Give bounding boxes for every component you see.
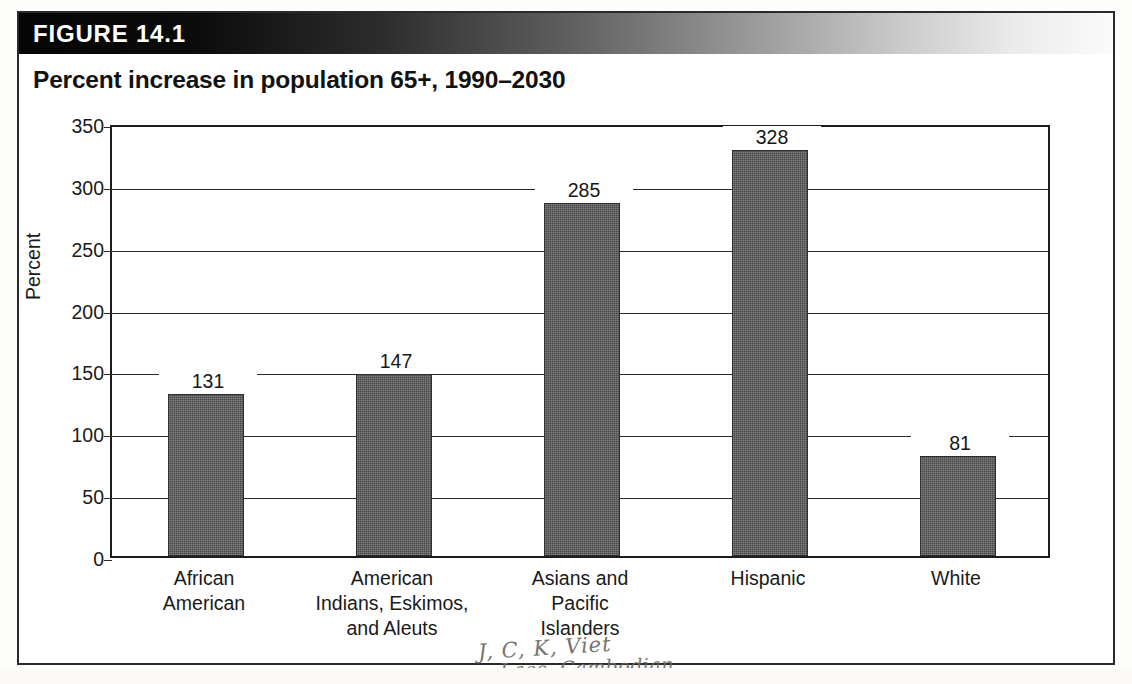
y-axis-tick-label: 250 bbox=[54, 239, 104, 262]
y-axis-tick-label: 350 bbox=[54, 115, 104, 138]
x-axis-category-label-line: White bbox=[851, 566, 1061, 591]
bar bbox=[920, 456, 996, 556]
y-axis-tick-label: 50 bbox=[54, 486, 104, 509]
bar-value-label: 147 bbox=[347, 350, 445, 372]
y-axis-tick-mark bbox=[104, 251, 112, 252]
figure-number-label: FIGURE 14.1 bbox=[33, 20, 186, 48]
x-axis-category-label-line: African bbox=[99, 566, 309, 591]
x-axis-category-label-line: Asians and bbox=[475, 566, 685, 591]
x-axis-category-label-line: Hispanic bbox=[663, 566, 873, 591]
y-axis-tick-label: 0 bbox=[54, 548, 104, 571]
y-axis-tick-mark bbox=[104, 189, 112, 190]
y-axis-tick-mark bbox=[104, 498, 112, 499]
x-axis-category-label-line: American bbox=[287, 566, 497, 591]
x-axis-category-label: AfricanAmerican bbox=[99, 566, 309, 616]
y-axis-tick-mark bbox=[104, 127, 112, 128]
x-axis-category-label-line: Pacific bbox=[475, 591, 685, 616]
chart-title: Percent increase in population 65+, 1990… bbox=[33, 66, 565, 94]
y-axis-tick-mark bbox=[104, 436, 112, 437]
bar bbox=[732, 150, 808, 556]
y-axis-tick-label: 300 bbox=[54, 177, 104, 200]
y-axis-tick-label: 200 bbox=[54, 301, 104, 324]
bar bbox=[356, 374, 432, 556]
y-axis-tick-label: 100 bbox=[54, 424, 104, 447]
bar-value-label: 285 bbox=[535, 179, 633, 201]
page-bottom-edge bbox=[0, 668, 1132, 684]
y-axis-title: Percent bbox=[22, 233, 45, 300]
y-axis-tick-mark bbox=[104, 313, 112, 314]
bar-value-label: 328 bbox=[723, 126, 821, 148]
bar bbox=[168, 394, 244, 556]
y-axis-tick-mark bbox=[104, 560, 112, 561]
y-axis-tick-mark bbox=[104, 374, 112, 375]
bar bbox=[544, 203, 620, 556]
y-axis-tick-label: 150 bbox=[54, 362, 104, 385]
x-axis-category-label: White bbox=[851, 566, 1061, 591]
x-axis-category-label-line: and Aleuts bbox=[287, 616, 497, 641]
x-axis-category-label-line: Indians, Eskimos, bbox=[287, 591, 497, 616]
x-axis-category-label: Asians andPacificIslanders bbox=[475, 566, 685, 641]
figure-root: FIGURE 14.1 Percent increase in populati… bbox=[0, 0, 1132, 684]
bar-value-label: 131 bbox=[159, 370, 257, 392]
x-axis-category-label: Hispanic bbox=[663, 566, 873, 591]
bar-value-label: 81 bbox=[911, 432, 1009, 454]
x-axis-category-label: AmericanIndians, Eskimos,and Aleuts bbox=[287, 566, 497, 641]
x-axis-category-label-line: American bbox=[99, 591, 309, 616]
